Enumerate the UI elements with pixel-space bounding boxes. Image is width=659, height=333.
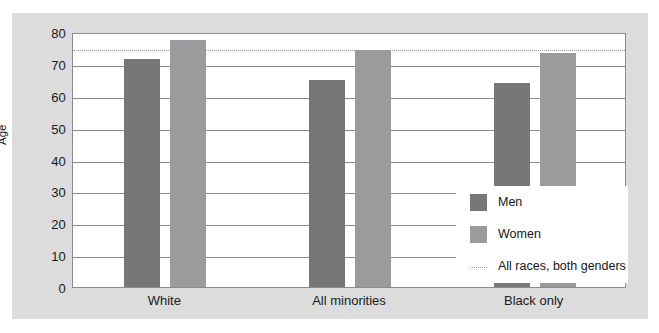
y-axis-tick-label: 80 (26, 26, 66, 41)
legend-item-label: Men (498, 195, 522, 209)
x-axis-tick-label: White (148, 293, 181, 308)
y-axis-tick-label: 40 (26, 153, 66, 168)
y-axis-tick-label: 10 (26, 249, 66, 264)
y-axis-tick-label: 0 (26, 281, 66, 296)
legend-color-swatch (470, 194, 487, 211)
legend-dotted-line-icon (470, 267, 487, 268)
legend-item-label: Women (498, 227, 541, 241)
legend-item-label: All races, both genders (498, 259, 626, 273)
bar-men-all-minorities (309, 80, 345, 287)
legend-item: All races, both genders (456, 250, 628, 282)
y-axis-tick-label: 60 (26, 89, 66, 104)
x-axis-tick-label: All minorities (312, 293, 386, 308)
y-axis-tick-label: 30 (26, 185, 66, 200)
chart-figure: 01020304050607080 Age WhiteAll minoritie… (0, 0, 659, 333)
y-axis-ticks: 01020304050607080 (18, 33, 66, 288)
legend-color-swatch (470, 226, 487, 243)
y-axis-tick-label: 20 (26, 217, 66, 232)
y-axis-tick-label: 50 (26, 121, 66, 136)
bar-women-white (170, 40, 206, 287)
legend-item: Women (456, 218, 628, 250)
chart-legend: MenWomenAll races, both genders (456, 186, 628, 283)
bar-men-white (124, 59, 160, 287)
legend-item: Men (456, 186, 628, 218)
x-axis-tick-label: Black only (504, 293, 563, 308)
y-axis-title: Age (0, 125, 8, 145)
bar-women-all-minorities (355, 50, 391, 287)
y-axis-tick-label: 70 (26, 57, 66, 72)
reference-line (73, 50, 625, 51)
